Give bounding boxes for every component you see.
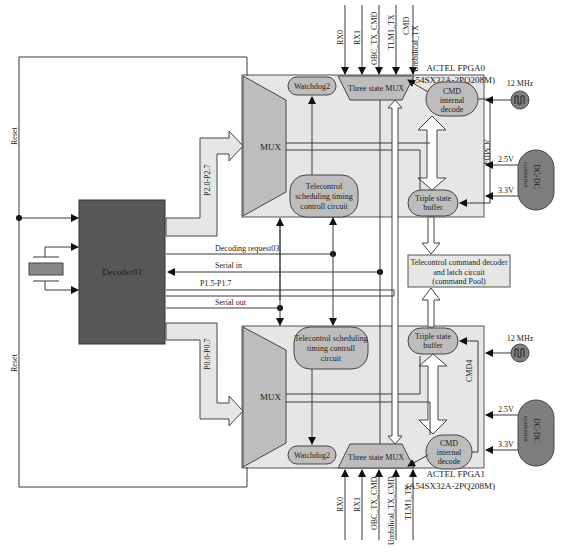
- fpga1-input-rx0: RX0: [336, 497, 345, 512]
- fpga1-name: ACTEL FPGA1: [427, 469, 485, 479]
- crystal-line-top: [45, 247, 78, 257]
- reset-label-bottom: Reset: [10, 353, 19, 372]
- fpga1-triple-buffer-l2: buffer: [423, 341, 443, 350]
- decoding-request-label: Decoding request03: [215, 244, 279, 253]
- fpga0-triple-buffer-l2: buffer: [423, 203, 443, 212]
- serial-out-label: Serial out: [215, 298, 247, 307]
- block-diagram: ACTEL FPGA0 (A54SX32A-2PQ208M) MUX Watch…: [0, 0, 566, 555]
- fpga1-watchdog-label: Watchdog2: [294, 451, 330, 460]
- fpga0-three-state-mux-label: Three state MUX: [348, 84, 404, 93]
- fpga1-cmd4-label: CMD4: [465, 360, 474, 382]
- fpga0-input-umbilical: Umbilical_TX: [411, 25, 420, 72]
- clock-bottom-icon: [511, 344, 529, 362]
- fpga1-tc-sched-l2: timing controll: [307, 344, 356, 353]
- dcdc-top-label: DC-DC: [532, 164, 541, 189]
- dcdc-top-sub: converter: [522, 162, 530, 189]
- fpga1-cmd-decode-l1: CMD: [440, 439, 458, 448]
- fpga0-cmd-decode-l2: internal: [440, 96, 465, 105]
- fpga0-input-cmd: CMD: [402, 17, 411, 35]
- command-pool-l1: Telecontrol command decoder: [410, 258, 508, 267]
- clock-top-label: 12 MHz: [507, 79, 534, 88]
- fpga1-input-tlm1: TLM1_TX: [404, 484, 413, 520]
- dcdc-bottom-sub: converter: [522, 416, 530, 443]
- bus-p1-label: P1.5-P1.7: [200, 279, 232, 288]
- fpga0-watchdog-label: Watchdog2: [294, 82, 330, 91]
- fpga1-triple-buffer-l1: Triple state: [415, 332, 451, 341]
- dcdc-top-v2: 3.3V: [498, 186, 514, 195]
- fpga1-input-umbilical: Umbilical_TX_CMD: [387, 476, 396, 545]
- fpga0-inputs: RX0 RX1 OBC_TX_CMD TLM1_TX CMD Umbilical…: [336, 5, 420, 74]
- fpga0-input-tlm1: TLM1_TX: [387, 14, 396, 50]
- serial-in-label: Serial in: [215, 261, 242, 270]
- fpga1-mux-label: MUX: [260, 392, 282, 402]
- crystal-line-bottom: [45, 281, 78, 290]
- fpga0-tc-sched-l1: Telecontrol: [306, 182, 343, 191]
- fpga1-inputs: RX0 RX1 OBC_TX_CMD Umbilical_TX_CMD TLM1…: [336, 470, 413, 545]
- fpga0-input-rx1: RX1: [353, 30, 362, 45]
- fpga1-cmd-decode-l2: internal: [437, 448, 462, 457]
- fpga1-three-state-mux-label: Three state MUX: [348, 453, 404, 462]
- clock-top-icon: [511, 91, 529, 109]
- fpga1-tc-sched-l3: circuit: [321, 354, 342, 363]
- decoder03-label: Decoder03: [102, 267, 142, 277]
- reset-junction: [16, 215, 22, 221]
- fpga0-input-obc: OBC_TX_CMD: [370, 11, 379, 65]
- fpga0-mux-label: MUX: [260, 142, 282, 152]
- fpga0-tc-sched-l2: scheduling timing: [295, 192, 353, 201]
- clock-bottom-label: 12 MHz: [507, 334, 534, 343]
- fpga0-cmd4-label: /CMD4: [482, 140, 491, 164]
- fpga0-input-rx0: RX0: [336, 30, 345, 45]
- command-pool-l2: and latch circuit: [433, 268, 485, 277]
- dcdc-bottom-label: DC-DC: [532, 418, 541, 443]
- fpga0-cmd-decode-l1: CMD: [443, 87, 461, 96]
- reset-label-top: Reset: [10, 126, 19, 145]
- fpga0-triple-buffer-l1: Triple state: [415, 194, 451, 203]
- fpga1-tc-sched-l1: Telecontrol scheduling: [295, 334, 368, 343]
- fpga1-input-rx1: RX1: [353, 497, 362, 512]
- fpga1-part: (A54SX32A-2PQ208M): [406, 481, 495, 491]
- dcdc-bottom-v1: 2.5V: [498, 405, 514, 414]
- dcdc-top-v1: 2.5V: [498, 155, 514, 164]
- bus-p0-label: P0.0-P0.7: [203, 338, 212, 370]
- dcdc-bottom-v2: 3.3V: [498, 440, 514, 449]
- fpga0-name: ACTEL FPGA0: [427, 63, 486, 73]
- pool-in-arrow: [422, 217, 440, 254]
- fpga0-cmd-decode-l3: decode: [441, 105, 464, 114]
- pool-in-arrow-bottom: [422, 288, 440, 327]
- fpga0-tc-sched-l3: controll circuit: [300, 202, 348, 211]
- fpga1-cmd-decode-l3: decode: [438, 457, 461, 466]
- command-pool-l3: (command Pool): [432, 277, 486, 286]
- crystal-icon: [29, 263, 63, 275]
- bus-p2-label: P2.0-P2.7: [203, 164, 212, 196]
- fpga1-input-obc: OBC_TX_CMD: [370, 476, 379, 530]
